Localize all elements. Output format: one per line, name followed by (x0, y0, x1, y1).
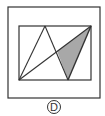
diagram-figure: D (0, 0, 105, 116)
line-left-side (19, 26, 45, 80)
outer-frame (8, 7, 100, 98)
option-label: D (50, 101, 58, 113)
shaded-triangle (57, 26, 91, 80)
